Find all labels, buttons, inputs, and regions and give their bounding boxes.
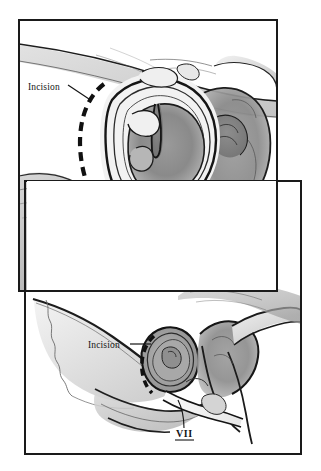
anatomical-figure: Incision VII [0,0,321,471]
figure-canvas: Incision VII [0,0,321,471]
incision-label-top: Incision [28,82,60,92]
nerve-label-bottom-group: VII [175,428,194,440]
bottom-panel-occluded-region [27,181,276,291]
tympanic-membrane-small [162,347,181,368]
incision-label-bottom: Incision [88,340,120,350]
nerve-label-bottom: VII [176,428,193,439]
